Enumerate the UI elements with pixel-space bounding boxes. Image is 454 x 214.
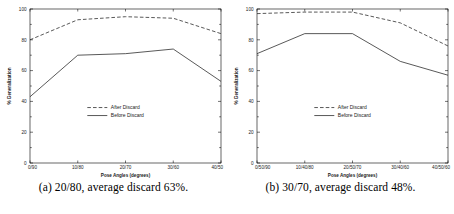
x-tick-label: 40/50/60 xyxy=(432,165,450,170)
y-axis-title: % Generalization xyxy=(234,67,239,104)
chart-b-content: 0204060801000/50/9010/40/8020/50/7030/40… xyxy=(234,7,450,178)
chart-a-svg: 0204060801000/9010/8020/7030/6040/50Pose… xyxy=(0,0,227,180)
x-axis-title: Pose Angles (degrees) xyxy=(101,173,151,178)
legend-label-after-discard: After Discard xyxy=(338,104,367,110)
series-line-before-discard xyxy=(257,34,448,76)
y-tick-label: 20 xyxy=(21,130,27,135)
chart-b: 0204060801000/50/9010/40/8020/50/7030/40… xyxy=(227,0,454,180)
x-tick-label: 10/80 xyxy=(72,165,84,170)
y-tick-label: 40 xyxy=(21,99,27,104)
chart-a: 0204060801000/9010/8020/7030/6040/50Pose… xyxy=(0,0,227,180)
y-tick-label: 0 xyxy=(251,161,254,166)
series-line-after-discard xyxy=(257,12,448,46)
figure-panel-b: 0204060801000/50/9010/40/8020/50/7030/40… xyxy=(227,0,454,214)
y-tick-label: 100 xyxy=(19,7,27,12)
y-tick-label: 40 xyxy=(248,99,254,104)
y-tick-label: 0 xyxy=(24,161,27,166)
x-tick-label: 40/50 xyxy=(212,165,224,170)
caption-b: (b) 30/70, average discard 48%. xyxy=(227,181,454,193)
x-axis-title: Pose Angles (degrees) xyxy=(328,173,378,178)
x-tick-label: 0/50/90 xyxy=(255,165,271,170)
y-tick-label: 60 xyxy=(21,68,27,73)
y-tick-label: 80 xyxy=(248,38,254,43)
y-tick-label: 20 xyxy=(248,130,254,135)
plot-frame xyxy=(30,9,221,163)
figure-row: 0204060801000/9010/8020/7030/6040/50Pose… xyxy=(0,0,454,214)
x-tick-label: 30/60 xyxy=(168,165,180,170)
legend-label-before-discard: Before Discard xyxy=(111,112,144,118)
x-tick-label: 20/70 xyxy=(120,165,132,170)
x-tick-label: 30/40/60 xyxy=(391,165,409,170)
series-line-before-discard xyxy=(30,49,221,97)
chart-b-svg: 0204060801000/50/9010/40/8020/50/7030/40… xyxy=(227,0,454,180)
y-tick-label: 100 xyxy=(246,7,254,12)
y-tick-label: 60 xyxy=(248,68,254,73)
legend-label-before-discard: Before Discard xyxy=(338,112,371,118)
series-line-after-discard xyxy=(30,17,221,40)
chart-a-content: 0204060801000/9010/8020/7030/6040/50Pose… xyxy=(7,7,223,178)
legend-label-after-discard: After Discard xyxy=(111,104,140,110)
figure-panel-a: 0204060801000/9010/8020/7030/6040/50Pose… xyxy=(0,0,227,214)
x-tick-label: 10/40/80 xyxy=(296,165,314,170)
caption-a: (a) 20/80, average discard 63%. xyxy=(0,181,227,193)
y-tick-label: 80 xyxy=(21,38,27,43)
y-axis-title: % Generalization xyxy=(7,67,12,104)
x-tick-label: 20/50/70 xyxy=(344,165,362,170)
x-tick-label: 0/90 xyxy=(28,165,37,170)
